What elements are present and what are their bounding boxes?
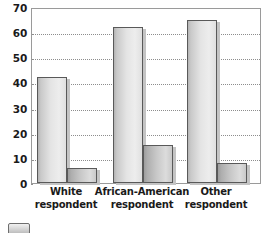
legend-swatch-icon <box>8 223 30 233</box>
bars-layer <box>32 9 260 183</box>
plot-area <box>31 8 261 184</box>
bar-chart: 010203040506070 WhiterespondentAfrican-A… <box>0 0 268 233</box>
category-label-line-2: respondent <box>156 199 268 212</box>
bar <box>113 27 143 183</box>
x-axis-category-label: Otherrespondent <box>156 186 268 211</box>
bar <box>217 163 247 183</box>
y-axis-tick-label: 40 <box>13 77 27 89</box>
x-axis-category-labels: WhiterespondentAfrican-Americanresponden… <box>31 186 261 220</box>
y-axis-tick-label: 20 <box>13 128 27 140</box>
y-axis-tick-label: 70 <box>13 2 27 14</box>
bar <box>143 145 173 183</box>
bar <box>187 20 217 183</box>
y-axis-tick-label: 10 <box>13 153 27 165</box>
bar <box>37 77 67 183</box>
bar <box>67 168 97 183</box>
category-label-line-1: Other <box>156 186 268 199</box>
y-axis-tick-label: 50 <box>13 52 27 64</box>
y-axis-tick-label: 60 <box>13 27 27 39</box>
y-axis-tick-label: 30 <box>13 103 27 115</box>
y-axis: 010203040506070 <box>0 8 30 184</box>
